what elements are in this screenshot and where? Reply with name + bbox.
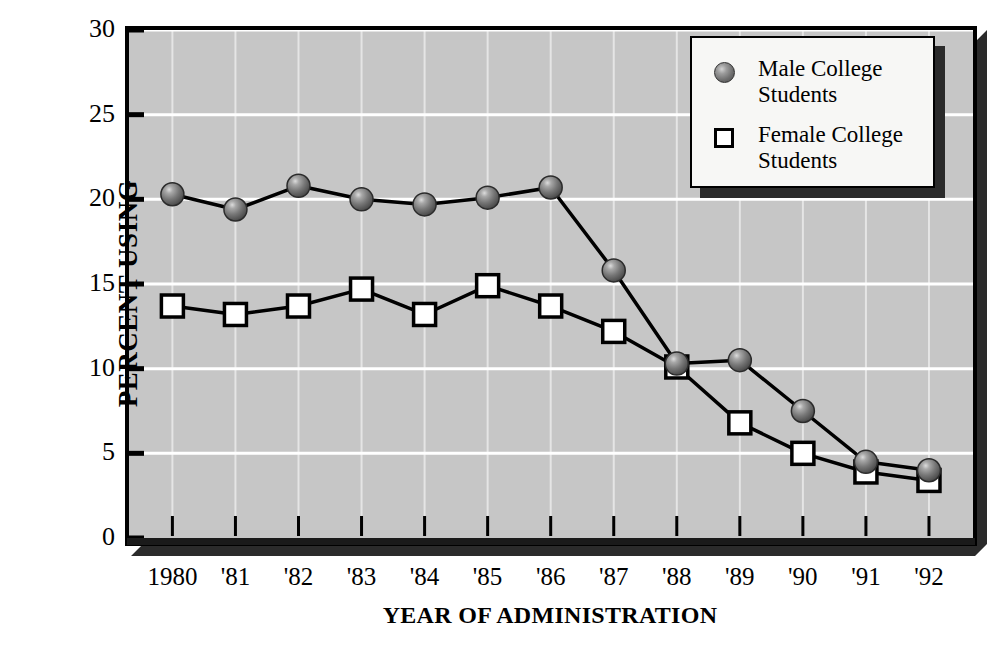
- y-tick-label: 10: [55, 355, 115, 381]
- legend-label-female: Female College Students: [744, 122, 903, 174]
- y-tick-label: 0: [55, 524, 115, 550]
- chart-figure: PERCENT USING YEAR OF ADMINISTRATION 051…: [0, 0, 993, 650]
- x-tick-label: '92: [879, 564, 979, 589]
- y-tick-label: 15: [55, 270, 115, 296]
- legend-item-female[interactable]: Female College Students: [704, 122, 903, 174]
- y-tick-label: 30: [55, 16, 115, 42]
- legend-label-male: Male College Students: [744, 56, 883, 108]
- legend-item-male[interactable]: Male College Students: [704, 56, 883, 108]
- legend-box: Male College Students Female College Stu…: [690, 36, 935, 188]
- x-axis-line: [127, 538, 975, 545]
- x-axis-title: YEAR OF ADMINISTRATION: [120, 602, 980, 629]
- y-tick-label: 20: [55, 185, 115, 211]
- y-axis-title: PERCENT USING: [113, 84, 144, 504]
- legend-sphere-icon: [704, 56, 744, 83]
- y-tick-label: 5: [55, 439, 115, 465]
- legend-square-icon: [704, 122, 744, 148]
- y-tick-label: 25: [55, 101, 115, 127]
